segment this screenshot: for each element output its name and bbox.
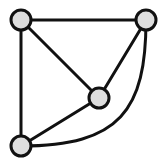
edge-top-left-center (21, 20, 99, 98)
node-bottom-left (11, 136, 31, 156)
edges (21, 20, 146, 146)
graph-diagram (0, 0, 163, 166)
node-top-right (136, 10, 156, 30)
node-center (89, 88, 109, 108)
node-top-left (11, 10, 31, 30)
